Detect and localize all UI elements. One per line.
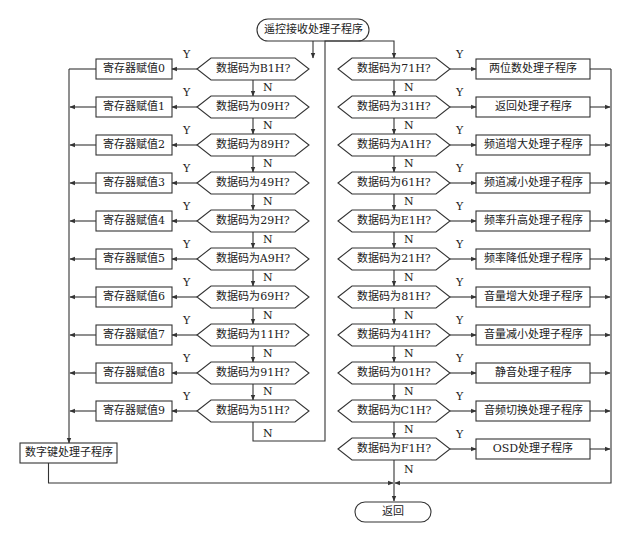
no-label-right-4: N: [404, 234, 414, 245]
yes-label-right-2: Y: [456, 125, 463, 136]
action-left-label-9: 寄存器赋值9: [96, 405, 172, 416]
no-label-right-5: N: [404, 272, 414, 283]
decision-left-label-3: 数据码为49H?: [197, 177, 309, 188]
yes-label-right-3: Y: [456, 163, 463, 174]
action-left-label-1: 寄存器赋值1: [96, 101, 172, 112]
no-label-right-7: N: [404, 348, 414, 359]
no-label-left-3: N: [263, 196, 273, 207]
decision-right-label-5: 数据码为21H?: [338, 253, 450, 264]
no-label-right-9: N: [404, 424, 414, 435]
flowchart-connectors: [0, 0, 626, 544]
decision-right-label-0: 数据码为71H?: [338, 63, 450, 74]
no-label-right-3: N: [404, 196, 414, 207]
decision-right-label-6: 数据码为81H?: [338, 291, 450, 302]
no-label-right-2: N: [404, 158, 414, 169]
yes-label-left-1: Y: [183, 87, 190, 98]
end-label: 返回: [355, 506, 431, 517]
no-label-left-0: N: [263, 82, 273, 93]
no-label-left-8: N: [263, 386, 273, 397]
decision-right-label-2: 数据码为A1H?: [338, 139, 450, 150]
action-left-label-8: 寄存器赋值8: [96, 367, 172, 378]
action-right-label-2: 频道增大处理子程序: [476, 139, 590, 150]
decision-right-label-7: 数据码为41H?: [338, 329, 450, 340]
action-right-label-9: 音频切换处理子程序: [476, 405, 590, 416]
action-right-label-10: OSD处理子程序: [476, 443, 590, 454]
action-left-label-0: 寄存器赋值0: [96, 63, 172, 74]
action-right-label-0: 两位数处理子程序: [476, 63, 590, 74]
decision-left-label-2: 数据码为89H?: [197, 139, 309, 150]
action-right-label-3: 频道减小处理子程序: [476, 177, 590, 188]
decision-right-label-9: 数据码为C1H?: [338, 405, 450, 416]
action-right-label-5: 频率降低处理子程序: [476, 253, 590, 264]
no-label-right-8: N: [404, 386, 414, 397]
decision-right-label-10: 数据码为F1H?: [338, 443, 450, 454]
decision-right-label-1: 数据码为31H?: [338, 101, 450, 112]
no-label-right-0: N: [404, 82, 414, 93]
yes-label-left-7: Y: [183, 315, 190, 326]
decision-left-label-1: 数据码为09H?: [197, 101, 309, 112]
action-right-label-8: 静音处理子程序: [476, 367, 590, 378]
yes-label-left-2: Y: [183, 125, 190, 136]
yes-label-right-1: Y: [456, 87, 463, 98]
no-label-left-7: N: [263, 348, 273, 359]
digit-key-handler-label: 数字键处理子程序: [20, 447, 117, 458]
action-left-label-3: 寄存器赋值3: [96, 177, 172, 188]
yes-label-left-0: Y: [183, 49, 190, 60]
no-label-left-last: N: [263, 428, 273, 439]
no-label-left-2: N: [263, 158, 273, 169]
yes-label-right-7: Y: [456, 315, 463, 326]
yes-label-left-9: Y: [183, 391, 190, 402]
yes-label-right-0: Y: [456, 49, 463, 60]
decision-left-label-8: 数据码为91H?: [197, 367, 309, 378]
no-label-left-5: N: [263, 272, 273, 283]
action-left-label-2: 寄存器赋值2: [96, 139, 172, 150]
start-label: 遥控接收处理子程序: [257, 24, 369, 35]
decision-right-label-4: 数据码为E1H?: [338, 215, 450, 226]
no-label-right-last: N: [404, 464, 414, 475]
yes-label-right-9: Y: [456, 391, 463, 402]
yes-label-left-4: Y: [183, 201, 190, 212]
action-right-label-6: 音量增大处理子程序: [476, 291, 590, 302]
left-merge-line: [49, 463, 394, 483]
decision-left-label-0: 数据码为B1H?: [197, 63, 309, 74]
yes-label-left-5: Y: [183, 239, 190, 250]
no-label-left-4: N: [263, 234, 273, 245]
yes-label-right-5: Y: [456, 239, 463, 250]
action-right-label-7: 音量减小处理子程序: [476, 329, 590, 340]
decision-left-label-9: 数据码为51H?: [197, 405, 309, 416]
no-label-left-6: N: [263, 310, 273, 321]
yes-label-left-8: Y: [183, 353, 190, 364]
flowchart: 遥控接收处理子程序数据码为B1H?寄存器赋值0YN数据码为09H?寄存器赋值1Y…: [0, 0, 626, 544]
decision-right-label-3: 数据码为61H?: [338, 177, 450, 188]
yes-label-left-3: Y: [183, 163, 190, 174]
no-label-left-1: N: [263, 120, 273, 131]
decision-left-label-6: 数据码为69H?: [197, 291, 309, 302]
decision-left-label-7: 数据码为11H?: [197, 329, 309, 340]
decision-left-label-4: 数据码为29H?: [197, 215, 309, 226]
no-label-right-6: N: [404, 310, 414, 321]
yes-label-left-6: Y: [183, 277, 190, 288]
action-left-label-4: 寄存器赋值4: [96, 215, 172, 226]
no-label-right-1: N: [404, 120, 414, 131]
yes-label-right-10: Y: [456, 429, 463, 440]
action-right-label-4: 频率升高处理子程序: [476, 215, 590, 226]
action-left-label-5: 寄存器赋值5: [96, 253, 172, 264]
decision-left-label-5: 数据码为A9H?: [197, 253, 309, 264]
action-left-label-7: 寄存器赋值7: [96, 329, 172, 340]
yes-label-right-6: Y: [456, 277, 463, 288]
decision-right-label-8: 数据码为01H?: [338, 367, 450, 378]
yes-label-right-4: Y: [456, 201, 463, 212]
yes-label-right-8: Y: [456, 353, 463, 364]
action-right-label-1: 返回处理子程序: [476, 101, 590, 112]
action-left-label-6: 寄存器赋值6: [96, 291, 172, 302]
